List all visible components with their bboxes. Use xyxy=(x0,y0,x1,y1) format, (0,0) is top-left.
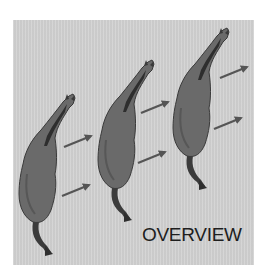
horse-1 xyxy=(19,94,75,256)
arrow-icon xyxy=(141,102,168,113)
overview-label: OVERVIEW xyxy=(142,224,246,246)
horse-3 xyxy=(173,28,229,190)
arrow-icon xyxy=(64,136,91,147)
horse-2 xyxy=(98,60,154,222)
arrow-icon xyxy=(138,152,165,163)
arrow-icon xyxy=(214,118,241,129)
arrow-icon xyxy=(220,67,247,78)
arrow-icon xyxy=(62,185,89,196)
